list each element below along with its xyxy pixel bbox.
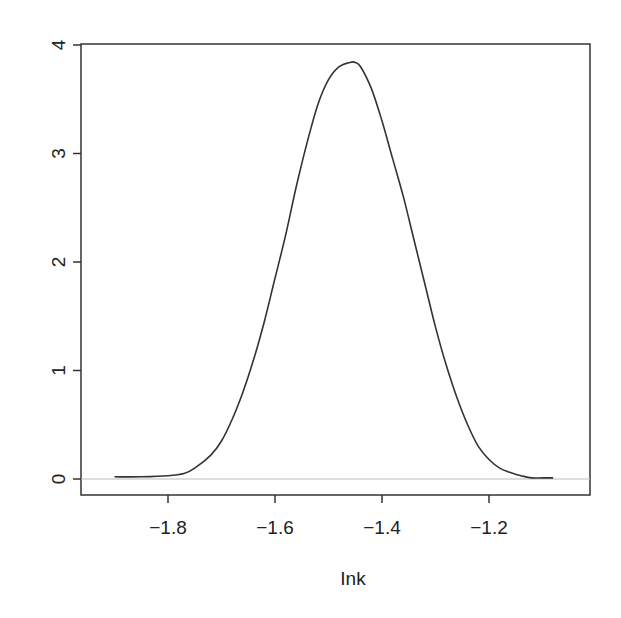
y-tick-label: 3	[48, 148, 69, 159]
y-tick-label: 0	[48, 474, 69, 485]
density-plot: 01234 −1.8−1.6−1.4−1.2 Ink	[0, 0, 621, 618]
x-axis: −1.8−1.6−1.4−1.2	[149, 495, 508, 538]
x-tick-label: −1.6	[256, 517, 294, 538]
y-tick-label: 2	[48, 257, 69, 268]
y-tick-label: 1	[48, 365, 69, 376]
x-tick-label: −1.4	[363, 517, 401, 538]
y-axis: 01234	[48, 39, 81, 484]
y-tick-label: 4	[48, 39, 69, 50]
density-curve	[115, 62, 554, 478]
x-axis-title: Ink	[340, 568, 366, 589]
x-tick-label: −1.2	[470, 517, 508, 538]
x-tick-label: −1.8	[149, 517, 187, 538]
plot-frame	[81, 44, 590, 495]
